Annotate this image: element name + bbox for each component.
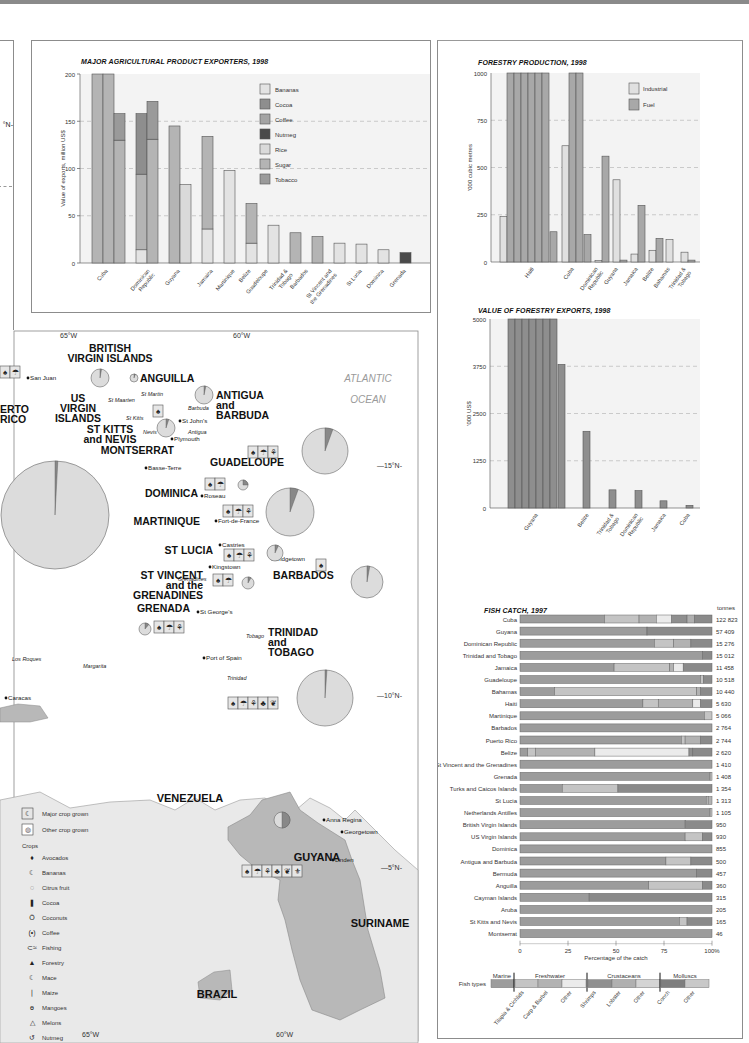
agri-legend-swatch-coffee (260, 114, 270, 124)
crop-glyph-icon: ☂ (12, 368, 19, 377)
place-label: Margarita (83, 663, 106, 669)
longitude-label: 60°W (276, 1031, 294, 1038)
agri-x-label: St Lucia (345, 267, 363, 287)
fish-bar-segment (520, 615, 604, 623)
crop-glyph-icon: ⚘ (245, 507, 252, 516)
svg-text:Guyana: Guyana (164, 267, 182, 287)
forestry-x-label: Guyana (603, 265, 620, 285)
crop-glyph-icon: ⚘ (264, 867, 271, 876)
agri-bar-segment-bananas (246, 243, 257, 263)
fish-row-label: US Virgin Islands (471, 834, 517, 840)
fish-row-label: Netherlands Antilles (464, 810, 517, 816)
country-label: ANGUILLA (140, 372, 195, 384)
agri-bar-segment-sugar (136, 174, 147, 250)
fish-row-tonnes: 930 (716, 834, 727, 840)
svg-text:Trinidad &Tobago: Trinidad &Tobago (667, 266, 692, 294)
fish-bar-segment (520, 821, 685, 829)
fish-type-swatch (562, 980, 586, 988)
fish-bar-segment (520, 676, 700, 684)
forestry-x-label: Jamaica (622, 265, 639, 286)
fish-bar-segment (520, 724, 712, 732)
agri-legend-swatch-sugar (260, 159, 270, 169)
fish-row-label: Guyana (496, 629, 518, 635)
left-map-edge: °N- (0, 40, 14, 340)
fish-bar-segment (706, 797, 708, 805)
svg-text:Cuba: Cuba (562, 265, 575, 280)
country-label: DOMINICA (145, 487, 198, 499)
fish-x-label: Percentage of the catch (584, 955, 647, 961)
fish-row-label: St Vincent and the Grenadines (438, 762, 517, 768)
fish-bar-segment (697, 869, 712, 877)
fish-type-swatch (636, 980, 660, 988)
agri-x-label: Dominica (365, 267, 385, 289)
fish-types-label: Fish types (459, 981, 486, 987)
fish-type-swatch (685, 980, 709, 988)
legend-crop-label: Coffee (42, 930, 60, 936)
fish-bar-segment (703, 676, 712, 684)
fexports-bar (515, 319, 522, 508)
agri-y-tick-label: 150 (65, 119, 76, 125)
agri-bar-segment-rice (180, 185, 191, 263)
legend-crop-label: Cocoa (42, 900, 60, 906)
fish-row-label: Cayman Islands (474, 895, 517, 901)
fish-bar-segment (685, 821, 712, 829)
country-label: GRENADA (137, 602, 191, 614)
fish-row-label: Anguilla (496, 883, 518, 889)
fexports-y-tick-label: 1250 (473, 458, 487, 464)
fish-bar-segment (687, 615, 695, 623)
country-label: MARTINIQUE (134, 515, 201, 527)
agri-chart: 050100150200Value of exports, million US… (32, 41, 432, 314)
map-canvas: 65°W60°W65°W60°W—15°N-—10°N-—5°N-ATLANTI… (0, 330, 420, 1043)
place-dot (27, 377, 30, 380)
agri-bar-segment-bananas (268, 225, 279, 263)
svg-text:Haiti: Haiti (523, 266, 534, 279)
cocoa-icon: ❚ (29, 899, 35, 907)
fish-bar-segment (702, 833, 712, 841)
agri-x-label: St Vincent andthe Grenadines (304, 268, 338, 305)
fish-bar-segment (520, 651, 702, 659)
fexports-y-tick-label: 2500 (473, 411, 487, 417)
latitude-label: —15°N- (377, 462, 403, 469)
fish-type-group-label: Crustaceans (607, 973, 641, 979)
nutmeg-icon: ↺ (29, 1034, 35, 1041)
latitude-label: —5°N- (381, 864, 403, 871)
fish-row-tonnes: 205 (716, 907, 727, 913)
fish-subtype-label: Other (632, 989, 646, 1004)
forestry-x-label: Belize (641, 266, 655, 282)
tree-icon: ▲ (29, 959, 36, 966)
svg-text:St Vincent andthe Grenadines: St Vincent andthe Grenadines (304, 268, 338, 305)
fexports-bar (686, 505, 693, 508)
legend-crop-label: Fishing (42, 945, 61, 951)
place-label: Anna Regina (326, 816, 362, 823)
fish-row-label: Dominica (492, 846, 518, 852)
fexports-bar (609, 490, 616, 508)
forestry-bar-fuel (535, 73, 542, 262)
fish-row-tonnes: 15 276 (716, 641, 735, 647)
fexports-x-label: Guyana (523, 511, 540, 531)
fexports-bar (529, 319, 536, 508)
fish-bar-segment (520, 869, 697, 877)
coffee-icon: (•) (28, 929, 35, 937)
fish-row-tonnes: 1 105 (716, 810, 732, 816)
place-label: St Maarten (108, 397, 135, 403)
place-dot (5, 697, 8, 700)
agri-bar-segment-nutmeg (400, 253, 411, 263)
svg-text:Cuba: Cuba (96, 267, 110, 282)
place-label: Port of Spain (206, 654, 242, 661)
legend-crop-label: Nutmeg (42, 1035, 63, 1041)
crop-glyph-icon: ☂ (236, 551, 243, 560)
banana-icon: ☾ (25, 810, 31, 817)
fish-row-label: Belize (501, 750, 518, 756)
fish-row-tonnes: 1 354 (716, 786, 732, 792)
left-dashed-line (0, 186, 12, 187)
agri-x-label: Martinique (214, 268, 235, 292)
place-dot (171, 438, 174, 441)
crop-glyph-icon: ☂ (254, 867, 261, 876)
forestry-bar-fuel (542, 73, 549, 262)
crop-glyph-icon: ♣ (260, 699, 266, 708)
svg-text:Belize: Belize (641, 266, 655, 282)
fish-bar-segment (687, 918, 712, 926)
agri-x-label: Jamaica (196, 267, 215, 287)
place-label: Los Roques (12, 656, 42, 662)
fish-bar-segment (710, 809, 712, 817)
